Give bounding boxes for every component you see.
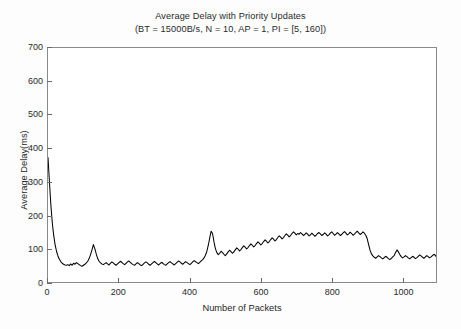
x-tick-mark bbox=[190, 278, 191, 283]
x-tick-mark bbox=[118, 278, 119, 283]
plot-area bbox=[47, 47, 437, 283]
x-tick-mark bbox=[403, 278, 404, 283]
y-axis-title: Average Delay(ms) bbox=[19, 100, 29, 240]
y-tick-mark bbox=[47, 47, 52, 48]
y-tick-mark bbox=[47, 216, 52, 217]
y-tick-label: 100 bbox=[9, 244, 43, 254]
x-axis-title: Number of Packets bbox=[47, 303, 437, 313]
chart-figure: Average Delay with Priority Updates (BT … bbox=[0, 0, 461, 329]
x-tick-mark bbox=[47, 278, 48, 283]
x-tick-label: 1000 bbox=[373, 287, 433, 297]
x-tick-label: 800 bbox=[302, 287, 362, 297]
x-tick-label: 200 bbox=[88, 287, 148, 297]
y-tick-mark bbox=[47, 148, 52, 149]
chart-title-block: Average Delay with Priority Updates (BT … bbox=[0, 10, 461, 35]
y-tick-mark bbox=[47, 81, 52, 82]
x-tick-label: 400 bbox=[160, 287, 220, 297]
delay-trace-line bbox=[48, 158, 436, 267]
x-tick-mark bbox=[261, 278, 262, 283]
y-tick-label: 700 bbox=[9, 42, 43, 52]
y-tick-mark bbox=[47, 249, 52, 250]
y-tick-mark bbox=[47, 182, 52, 183]
x-tick-mark bbox=[332, 278, 333, 283]
y-tick-label: 600 bbox=[9, 76, 43, 86]
y-tick-mark bbox=[47, 114, 52, 115]
y-tick-mark bbox=[47, 283, 52, 284]
x-tick-label: 600 bbox=[231, 287, 291, 297]
chart-title: Average Delay with Priority Updates bbox=[0, 10, 461, 23]
delay-trace-svg bbox=[48, 48, 436, 282]
chart-subtitle: (BT = 15000B/s, N = 10, AP = 1, PI = [5,… bbox=[0, 23, 461, 36]
x-tick-label: 0 bbox=[17, 287, 77, 297]
